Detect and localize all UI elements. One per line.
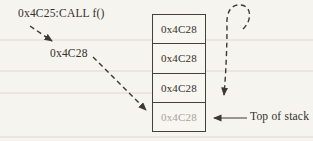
stack-call-diagram: 0x4C25:CALL f() 0x4C28 0x4C28 0x4C28 0x4… bbox=[0, 0, 313, 141]
return-to-stack-arrow bbox=[93, 57, 146, 110]
top-of-stack-label: Top of stack bbox=[250, 110, 309, 122]
stack-cell-top-of-stack: 0x4C28 bbox=[153, 103, 205, 131]
stack-box: 0x4C28 0x4C28 0x4C28 0x4C28 bbox=[152, 14, 206, 132]
stack-cell: 0x4C28 bbox=[153, 15, 205, 44]
stack-cell: 0x4C28 bbox=[153, 44, 205, 73]
call-to-return-arrow bbox=[30, 26, 52, 41]
loop-return-arrow bbox=[224, 5, 250, 95]
stack-cell: 0x4C28 bbox=[153, 74, 205, 103]
return-address-label: 0x4C28 bbox=[50, 47, 88, 59]
call-instruction-label: 0x4C25:CALL f() bbox=[18, 7, 105, 19]
scan-artifact bbox=[0, 136, 313, 138]
